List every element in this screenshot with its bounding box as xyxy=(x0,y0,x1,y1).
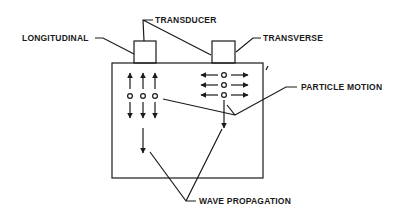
label-wave-propagation: WAVE PROPAGATION xyxy=(199,197,291,206)
longitudinal-particle-arrows xyxy=(130,73,155,153)
specimen-block xyxy=(112,63,263,178)
label-transducer: TRANSDUCER xyxy=(155,16,217,25)
label-longitudinal: LONGITUDINAL xyxy=(22,34,89,43)
label-transverse: TRANSVERSE xyxy=(263,34,323,43)
label-particle-motion: PARTICLE MOTION xyxy=(301,83,382,92)
block-corner-tick xyxy=(266,66,268,70)
longitudinal-transducer xyxy=(134,41,156,63)
transverse-particles xyxy=(222,73,227,98)
particle-motion-leader xyxy=(163,87,297,115)
transverse-leader xyxy=(236,38,261,52)
transducer-leader xyxy=(143,20,211,55)
transverse-transducer xyxy=(212,41,235,63)
longitudinal-leader xyxy=(95,38,134,54)
wave-propagation-leader xyxy=(150,129,222,201)
longitudinal-particles xyxy=(128,94,158,99)
